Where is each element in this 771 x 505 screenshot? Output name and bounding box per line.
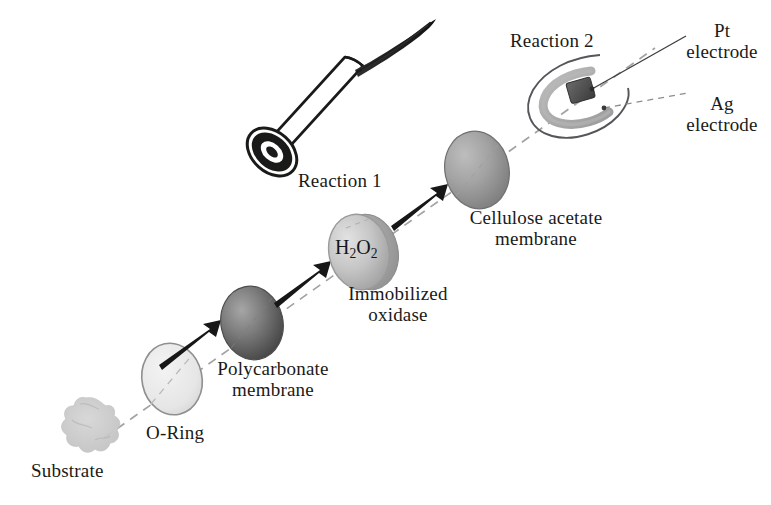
label-hydrogen-peroxide: H2O2 [335, 236, 378, 262]
label-cellulose-acetate-membrane: Cellulose acetate membrane [443, 207, 629, 250]
label-pt-electrode-line2: electrode [674, 41, 770, 62]
label-reaction-2: Reaction 2 [510, 30, 594, 51]
label-immobilized-oxidase: Immobilized oxidase [330, 283, 466, 326]
label-polycarbonate-line2: membrane [198, 379, 348, 400]
biosensor-diagram: Substrate O-Ring Polycarbonate membrane … [0, 0, 771, 505]
arrow-oxidase-to-cellulose [391, 184, 448, 231]
label-cellulose-line1: Cellulose acetate [443, 207, 629, 228]
label-o-ring: O-Ring [146, 422, 204, 443]
label-cellulose-line2: membrane [443, 228, 629, 249]
label-pt-electrode-line1: Pt [674, 20, 770, 41]
electrode-assembly [528, 55, 628, 138]
substrate-blob [62, 397, 120, 452]
label-ag-electrode: Ag electrode [674, 93, 770, 136]
label-immobilized-line2: oxidase [330, 304, 466, 325]
arrow-polycarbonate-to-oxidase [274, 261, 331, 308]
label-substrate: Substrate [31, 460, 104, 481]
diagram-canvas [0, 0, 771, 505]
probe-cable [355, 19, 436, 77]
label-polycarbonate-membrane: Polycarbonate membrane [198, 358, 348, 401]
label-pt-electrode: Pt electrode [674, 20, 770, 63]
label-ag-electrode-line1: Ag [674, 93, 770, 114]
label-polycarbonate-line1: Polycarbonate [198, 358, 348, 379]
label-immobilized-line1: Immobilized [330, 283, 466, 304]
label-reaction-1: Reaction 1 [298, 170, 382, 191]
probe-body-cylinder [238, 57, 363, 186]
cellulose-acetate-sphere [438, 125, 517, 215]
label-ag-electrode-line2: electrode [674, 114, 770, 135]
